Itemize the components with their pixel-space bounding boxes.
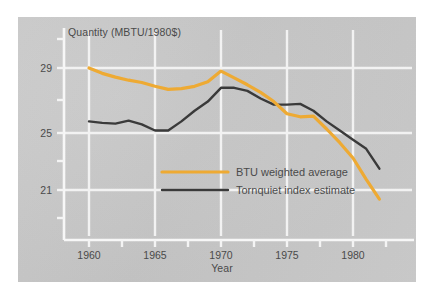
legend: BTU weighted average Tornquiet index est…: [162, 166, 355, 196]
x-axis-title: Year: [211, 262, 233, 274]
figure-container: Quantity (MBTU/1980$) Year 29 25 21 1960…: [0, 0, 434, 299]
line-chart: Quantity (MBTU/1980$) Year 29 25 21 1960…: [0, 0, 434, 299]
x-tick-label-1980: 1980: [341, 249, 365, 261]
plot-area: Quantity (MBTU/1980$) Year 29 25 21 1960…: [0, 0, 434, 299]
x-axis: [64, 240, 414, 247]
series-line-tornquiet-index-estimate: [89, 88, 379, 169]
x-tick-label-1970: 1970: [209, 249, 233, 261]
legend-label-tornquiet-index-estimate: Tornquiet index estimate: [236, 184, 355, 196]
y-axis-title: Quantity (MBTU/1980$): [68, 26, 181, 38]
y-tick-label-29: 29: [40, 62, 52, 74]
legend-label-btu-weighted-average: BTU weighted average: [236, 166, 348, 178]
x-tick-label-1960: 1960: [77, 249, 101, 261]
y-tick-label-25: 25: [40, 127, 52, 139]
x-tick-label-1975: 1975: [275, 249, 299, 261]
x-tick-label-1965: 1965: [143, 249, 167, 261]
y-axis: [57, 28, 64, 240]
y-tick-label-21: 21: [40, 184, 52, 196]
